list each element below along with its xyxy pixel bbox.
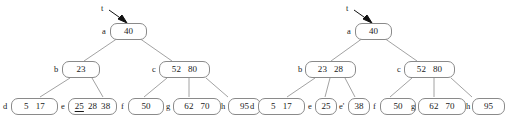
node-e2: 25 [315,98,337,115]
node-e-keys: 25 28 38 [75,102,111,111]
node-c2-keys: 52 80 [417,65,442,74]
node-label-h: h [221,102,225,111]
key: 23 [76,65,85,74]
node-b2: 23 28 [305,61,356,78]
node-g-keys: 62 70 [184,102,209,111]
key: 17 [283,102,292,111]
key: 38 [101,102,110,111]
node-b-keys: 23 [76,65,85,74]
edge-a-c [139,38,172,61]
node-label-b2: b [298,65,302,74]
key: 40 [124,27,133,36]
key: 5 [24,102,29,111]
node-d2-keys: 5 17 [271,102,292,111]
key: 28 [334,65,343,74]
node-label-d2: d [250,102,254,111]
key: 28 [88,102,97,111]
edge-b-d [40,78,70,97]
root-arrow-head-left [118,15,127,23]
node-b: 23 [62,61,100,78]
root-pointer-label-right: t [346,4,348,13]
edge-a2-b2 [331,38,363,61]
node-h2: 95 [472,98,505,115]
node-e-prime-keys: 38 [354,102,363,111]
key: 50 [141,102,150,111]
key: 38 [354,102,363,111]
key: 52 [417,65,426,74]
node-c2: 52 80 [404,61,455,78]
edge-c-f [144,78,167,97]
node-g: 62 70 [173,98,221,115]
node-label-e2: e [308,102,312,111]
key: 40 [369,27,378,36]
node-label-f: f [121,102,124,111]
node-h-keys: 95 [240,102,249,111]
node-c: 52 80 [159,61,210,78]
key: 80 [433,65,442,74]
key: 52 [172,65,181,74]
node-label-a2: a [347,27,351,36]
key: 95 [240,102,249,111]
node-h: 95 [228,98,261,115]
node-label-b: b [54,65,58,74]
edge-a-b [84,38,118,61]
key: 25 [321,102,330,111]
edge-a2-c2 [384,38,417,61]
key: 23 [318,65,327,74]
node-label-d: d [3,102,7,111]
node-label-e: e [61,102,65,111]
root-arrow-line-left [109,10,126,22]
node-a2: 40 [355,23,392,40]
edge-c2-f2 [390,78,412,97]
node-label-e-prime: e' [339,102,344,111]
edge-b2-e2 [325,78,330,97]
key: 70 [446,102,455,111]
root-arrow-line-right [354,10,371,22]
edge-c2-h2 [451,78,472,97]
node-label-a: a [102,27,106,36]
node-f2-keys: 50 [393,102,402,111]
node-d-keys: 5 17 [24,102,45,111]
root-pointer-label-left: t [101,4,103,13]
edge-b2-ep2 [345,78,355,97]
key: 70 [201,102,210,111]
node-g2: 62 70 [418,98,466,115]
key: 5 [271,102,276,111]
key: 62 [429,102,438,111]
key: 50 [393,102,402,111]
node-e2-keys: 25 [321,102,330,111]
key: 62 [184,102,193,111]
node-label-c: c [152,65,156,74]
edge-c-h [206,78,228,97]
node-a-keys: 40 [124,27,133,36]
node-h2-keys: 95 [484,102,493,111]
key-highlighted: 25 [75,102,84,111]
root-arrow-head-right [363,15,372,23]
key: 95 [484,102,493,111]
node-e: 25 28 38 [68,98,117,115]
node-d2: 5 17 [258,98,305,115]
node-g2-keys: 62 70 [429,102,454,111]
node-e-prime: 38 [348,98,370,115]
node-label-g2: g [411,102,415,111]
node-b2-keys: 23 28 [318,65,343,74]
node-f-keys: 50 [141,102,150,111]
node-a2-keys: 40 [369,27,378,36]
node-d: 5 17 [11,98,58,115]
node-label-c2: c [397,65,401,74]
edge-b-e [92,78,103,97]
node-c-keys: 52 80 [172,65,197,74]
edge-b2-d2 [287,78,315,97]
node-label-g: g [166,102,170,111]
key: 17 [36,102,45,111]
node-label-f2: f [373,102,376,111]
node-f: 50 [128,98,164,115]
node-label-h2: h [466,102,470,111]
node-a: 40 [110,23,147,40]
key: 80 [188,65,197,74]
